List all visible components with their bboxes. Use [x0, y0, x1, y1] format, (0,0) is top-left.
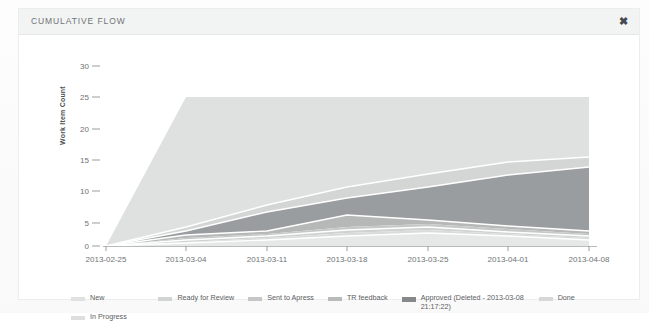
legend-label: In Progress [90, 313, 127, 322]
y-tick-label: 0 [85, 242, 90, 251]
y-axis-title: Work Item Count [59, 86, 66, 145]
y-tick-20: 20 [80, 125, 100, 134]
y-tick-0: 0 [85, 242, 100, 251]
legend-swatch-icon [539, 297, 553, 301]
y-tick-label: 30 [80, 62, 89, 71]
legend-swatch-icon [71, 316, 85, 320]
y-tick-label: 5 [85, 219, 90, 228]
y-tick-label: 15 [80, 156, 89, 165]
legend-label: Done [558, 294, 575, 303]
legend-item-new[interactable]: New [71, 294, 104, 303]
x-tick-label: 2013-03-11 [247, 255, 288, 264]
x-tick-label: 2013-03-04 [166, 255, 207, 264]
x-tick-label: 2013-02-25 [86, 255, 127, 264]
legend-row-2: In Progress [71, 313, 631, 322]
page-title: CUMULATIVE FLOW [31, 16, 126, 26]
legend-swatch-icon [248, 297, 262, 301]
legend-item-tr-feedback[interactable]: TR feedback [328, 294, 388, 303]
y-tick-10: 10 [80, 187, 100, 196]
legend-label: Approved (Deleted - 2013-03-08 21:17:22) [421, 294, 525, 311]
y-tick-label: 25 [80, 93, 89, 102]
legend-item-sent-to-apress[interactable]: Sent to Apress [248, 294, 314, 303]
legend-item-ready-for-review[interactable]: Ready for Review [158, 294, 234, 303]
close-icon[interactable]: ✖ [616, 14, 630, 28]
legend-swatch-icon [328, 297, 342, 301]
legend-label: Ready for Review [177, 294, 234, 303]
y-tick-25: 25 [80, 93, 100, 102]
y-tick-label: 20 [80, 125, 89, 134]
legend-item-in-progress[interactable]: In Progress [71, 313, 127, 322]
y-tick-30: 30 [80, 62, 100, 71]
legend-swatch-icon [158, 297, 172, 301]
chart-plot-svg: 30 25 20 15 10 [19, 35, 641, 301]
x-tick-label: 2013-04-08 [569, 255, 610, 264]
legend-row-1: New Ready for Review Sent to Apress TR f… [71, 294, 631, 311]
y-axis: 30 25 20 15 10 [80, 62, 100, 251]
y-tick-15: 15 [80, 156, 100, 165]
legend-label: Sent to Apress [267, 294, 314, 303]
legend-label: New [90, 294, 104, 303]
cumulative-flow-panel: CUMULATIVE FLOW ✖ Work Item Count 30 25 … [18, 8, 640, 300]
legend-swatch-icon [402, 297, 416, 302]
x-tick-label: 2013-03-25 [408, 255, 449, 264]
legend-label: TR feedback [347, 294, 388, 303]
y-tick-label: 10 [80, 187, 89, 196]
x-tick-label: 2013-04-01 [488, 255, 529, 264]
x-axis: 2013-02-25 2013-03-04 2013-03-11 2013-03… [86, 246, 610, 264]
y-tick-5: 5 [85, 219, 100, 228]
chart-legend: New Ready for Review Sent to Apress TR f… [71, 294, 631, 324]
legend-swatch-icon [71, 297, 85, 301]
legend-item-done[interactable]: Done [539, 294, 575, 303]
panel-header: CUMULATIVE FLOW ✖ [19, 9, 639, 35]
cumulative-flow-chart: Work Item Count 30 25 20 15 [19, 35, 641, 301]
x-tick-label: 2013-03-18 [327, 255, 368, 264]
legend-item-approved-deleted[interactable]: Approved (Deleted - 2013-03-08 21:17:22) [402, 294, 525, 311]
